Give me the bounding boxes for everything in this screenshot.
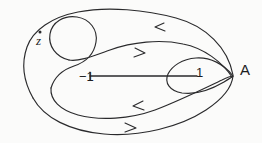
label-one: 1 (196, 66, 203, 79)
outer-contour-bottom (33, 76, 233, 135)
arrow-top-outer (155, 23, 165, 31)
arrow-lower-middle (133, 101, 144, 110)
label-basepoint-a: A (240, 62, 250, 77)
arrow-bottom-outer (125, 123, 136, 132)
label-negative-one: −1 (79, 70, 94, 83)
contour-figure: z −1 1 A (0, 0, 262, 143)
label-point-z: z (36, 34, 41, 47)
contour-drawing (0, 0, 262, 143)
outer-contour-top (24, 9, 233, 98)
arrow-upper-middle (134, 48, 145, 57)
